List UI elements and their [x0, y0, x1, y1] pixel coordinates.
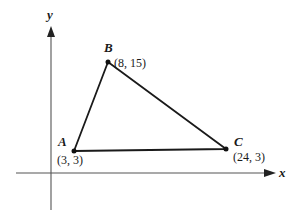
- point-c-coord: (24, 3): [233, 150, 265, 164]
- x-axis-label: x: [278, 165, 286, 180]
- y-axis-label: y: [45, 7, 53, 22]
- x-axis: x: [16, 165, 286, 180]
- point-b-dot: [106, 60, 111, 65]
- point-c-label: C: [234, 134, 243, 149]
- y-axis: y: [45, 7, 55, 210]
- point-a-coord: (3, 3): [57, 153, 83, 167]
- point-b-coord: (8, 15): [114, 56, 146, 70]
- triangle-abc: [74, 62, 226, 151]
- triangle-diagram: y x A (3, 3) B (8, 15) C (24, 3): [0, 0, 288, 221]
- point-b-label: B: [103, 40, 113, 55]
- x-axis-arrow-icon: [264, 169, 276, 177]
- point-a-label: A: [57, 134, 67, 149]
- y-axis-arrow-icon: [47, 26, 55, 37]
- point-c-dot: [224, 147, 229, 152]
